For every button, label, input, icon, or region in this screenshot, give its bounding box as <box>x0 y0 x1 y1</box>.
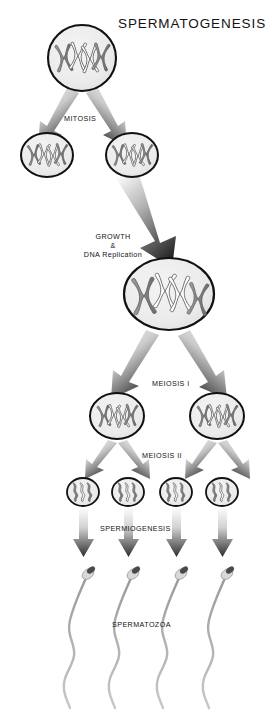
mitosis-label: MITOSIS <box>64 114 96 123</box>
cell-spermatogonium <box>48 25 116 91</box>
meiosis-two-arrow-3 <box>185 440 217 479</box>
spermiogenesis-arrow-4 <box>212 508 233 557</box>
dna-replication-label: DNA Replication <box>64 250 162 259</box>
cell-spermatid-4 <box>206 478 238 506</box>
meiosis-two-arrow-1 <box>85 440 117 479</box>
meiosis-one-arrow-right <box>178 330 227 399</box>
spermatozoon-2 <box>109 565 142 708</box>
diagram-canvas <box>0 0 278 714</box>
cell-secondary-spermatocyte-right <box>190 393 244 439</box>
meiosis-one-arrow-left <box>111 330 159 399</box>
spermiogenesis-arrow-1 <box>73 508 94 557</box>
cell-spermatid-3 <box>160 478 192 506</box>
cell-spermatogonium-daughter-left <box>21 133 73 177</box>
growth-ampersand-label: & <box>78 241 148 250</box>
spermatogenesis-diagram: SPERMATOGENESIS MITOSIS GROWTH & DNA Rep… <box>0 0 278 714</box>
spermatozoon-4 <box>203 565 236 708</box>
cell-spermatid-2 <box>112 478 144 506</box>
meiosis-two-label: MEIOSIS II <box>142 451 182 460</box>
cell-spermatogonium-daughter-right <box>106 133 158 177</box>
cell-secondary-spermatocyte-left <box>90 393 144 439</box>
diagram-title: SPERMATOGENESIS <box>118 16 266 31</box>
spermatozoon-3 <box>157 565 190 708</box>
cell-spermatid-1 <box>67 478 99 506</box>
cell-primary-spermatocyte <box>124 258 214 330</box>
meiosis-two-arrow-4 <box>218 440 250 479</box>
spermatozoon-1 <box>64 565 97 708</box>
growth-label: GROWTH <box>78 232 148 241</box>
meiosis-one-label: MEIOSIS I <box>152 379 190 388</box>
spermiogenesis-label: SPERMIOGENESIS <box>100 524 171 533</box>
spermatozoa-label: SPERMATOZOA <box>112 620 171 629</box>
